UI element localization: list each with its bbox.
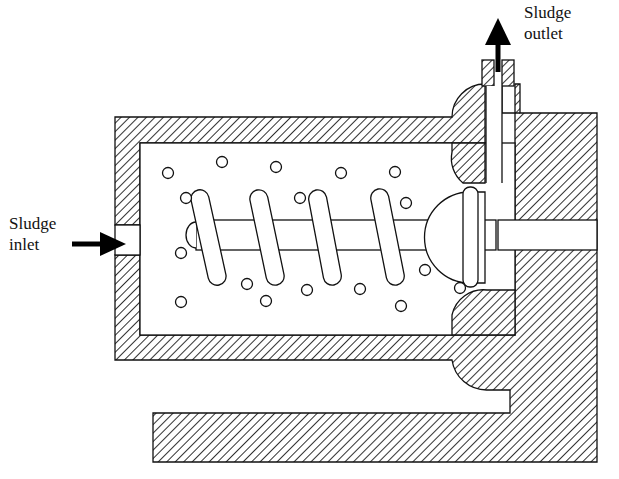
discharge-plate (463, 187, 478, 287)
sludge-particle (261, 296, 272, 307)
sludge-particle (396, 301, 407, 312)
sludge-particle (336, 168, 347, 179)
outlet-label-line2: outlet (524, 23, 571, 44)
inlet-label-line2: inlet (9, 234, 56, 255)
sludge-particle (295, 193, 306, 204)
sludge-particle (163, 168, 174, 179)
inlet-port (115, 225, 140, 255)
outlet-nozzle-left (482, 60, 494, 86)
sludge-particle (271, 162, 282, 173)
inlet-label-line1: Sludge (9, 213, 56, 234)
sludge-particle (455, 283, 466, 294)
sludge-particle (217, 157, 228, 168)
sludge-particle (176, 248, 187, 259)
sludge-particle (302, 285, 313, 296)
shaft-bore (498, 220, 597, 250)
sludge-outlet-label: Sludge outlet (524, 2, 571, 44)
outlet-channel (486, 86, 502, 183)
screw-press-diagram (0, 0, 619, 479)
sludge-particle (420, 265, 431, 276)
sludge-inlet-label: Sludge inlet (9, 213, 56, 255)
sludge-particle (242, 279, 253, 290)
sludge-particle (355, 284, 366, 295)
outlet-label-line1: Sludge (524, 2, 571, 23)
sludge-particle (176, 297, 187, 308)
sludge-particle (181, 193, 192, 204)
outlet-nozzle-right (502, 60, 514, 86)
sludge-particle (390, 167, 401, 178)
sludge-particle (401, 198, 412, 209)
